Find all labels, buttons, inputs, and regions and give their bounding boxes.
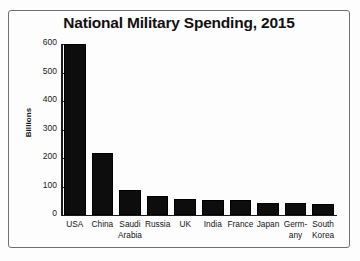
bar-slot (309, 44, 337, 215)
y-tick: 0 (61, 215, 66, 216)
bar-uk (174, 199, 196, 215)
x-label-line-1: Russia (145, 219, 170, 229)
x-label-line-1: Saudi (119, 219, 140, 229)
x-axis-label-china: China (89, 219, 117, 240)
bar-germany (285, 203, 307, 214)
bar-slot (61, 44, 89, 215)
x-axis-label-south-korea: SouthKorea (309, 219, 337, 240)
y-tick-label: 400 (43, 94, 57, 104)
y-tick-label: 100 (43, 180, 57, 190)
x-axis-label-uk: UK (171, 219, 199, 240)
bar-south-korea (312, 204, 334, 214)
x-axis-label-japan: Japan (254, 219, 282, 240)
bar-japan (257, 203, 279, 215)
chart-title: National Military Spending, 2015 (8, 14, 350, 32)
bar-russia (147, 196, 169, 215)
x-label-line-1: USA (66, 219, 83, 229)
bar-slot (227, 44, 255, 215)
y-tick-label: 600 (43, 37, 57, 47)
bar-slot (282, 44, 310, 215)
bar-france (230, 200, 252, 215)
bar-series (61, 44, 337, 215)
bar-china (92, 153, 114, 214)
bar-india (202, 200, 224, 215)
bar-saudi-arabia (119, 190, 141, 215)
x-label-line-2: any (282, 230, 310, 241)
y-axis-title: Billions (24, 83, 33, 163)
x-label-line-2: Korea (309, 230, 337, 241)
x-axis-label-india: India (199, 219, 227, 240)
x-label-line-1: Japan (257, 219, 280, 229)
x-axis-line (61, 215, 337, 217)
x-label-line-1: France (227, 219, 253, 229)
bar-slot (171, 44, 199, 215)
chart-figure: National Military Spending, 2015 Billion… (0, 0, 360, 261)
y-tick-label: 500 (43, 66, 57, 76)
y-tick-label: 0 (52, 208, 57, 218)
bar-slot (116, 44, 144, 215)
bar-slot (89, 44, 117, 215)
bar-slot (144, 44, 172, 215)
x-label-line-1: India (204, 219, 222, 229)
x-axis-labels: USAChinaSaudiArabiaRussiaUKIndiaFranceJa… (61, 219, 337, 240)
x-axis-label-france: France (227, 219, 255, 240)
x-axis-label-russia: Russia (144, 219, 172, 240)
x-label-line-1: China (92, 219, 114, 229)
x-label-line-1: Germ- (284, 219, 308, 229)
bar-slot (254, 44, 282, 215)
y-tick-label: 200 (43, 151, 57, 161)
x-label-line-1: UK (179, 219, 191, 229)
x-axis-label-saudi-arabia: SaudiArabia (116, 219, 144, 240)
bar-slot (199, 44, 227, 215)
x-label-line-2: Arabia (116, 230, 144, 241)
plot-area: 0100200300400500600 (61, 45, 337, 216)
x-axis-label-germany: Germ-any (282, 219, 310, 240)
x-label-line-1: South (312, 219, 334, 229)
y-tick-label: 300 (43, 123, 57, 133)
x-axis-label-usa: USA (61, 219, 89, 240)
bar-usa (64, 44, 86, 214)
